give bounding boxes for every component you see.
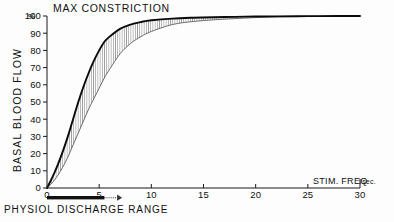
y-tick-label: 20 [30,148,41,159]
max-constriction-label: MAX CONSTRICTION [53,2,170,14]
hatched-variability-band [47,16,360,188]
x-tick-label: 30 [355,189,366,200]
y-tick-label: 0 [36,182,41,193]
y-tick-label: 80 [30,45,41,56]
y-tick-label: 40 [30,114,41,125]
figure-root: 0102030405060708090100 051015202530 MAX … [0,0,394,222]
y-axis-ticks: 0102030405060708090100 [25,10,47,193]
chart-canvas: 0102030405060708090100 051015202530 MAX … [0,0,394,222]
upper-response-curve [47,16,360,188]
y-tick-label: 10 [30,165,41,176]
x-tick-label: 20 [250,189,261,200]
physiol-discharge-range-bar [47,196,104,199]
y-tick-label: 60 [30,79,41,90]
x-tick-label: 10 [146,189,157,200]
y-axis-title: BASAL BLOOD FLOW [11,48,23,172]
x-tick-label: 25 [302,189,313,200]
y-tick-label: 30 [30,131,41,142]
physiol-discharge-range-label: PHYSIOL DISCHARGE RANGE [4,204,168,215]
y-tick-label: 90 [30,28,41,39]
y-tick-label: 70 [30,62,41,73]
x-tick-label: 15 [198,189,209,200]
y-tick-label: 50 [30,96,41,107]
percent-symbol: % [28,12,36,21]
x-axis-unit-label: /sec. [360,178,376,185]
lower-response-curve [47,16,360,188]
discharge-range-arrow-head [117,195,122,201]
